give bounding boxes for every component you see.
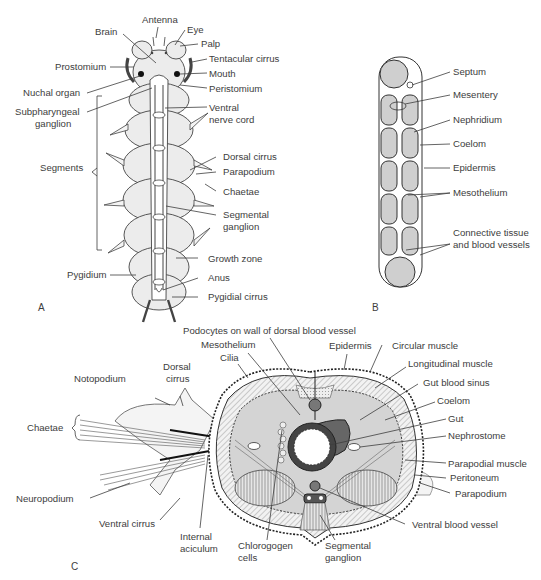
dorsal-blood-vessel xyxy=(309,399,321,411)
label-peristomium: Peristomium xyxy=(209,83,262,94)
panel-b-coelom-diagram: Septum Mesentery Nephridium Coelom Epide… xyxy=(372,57,530,313)
label-eye: Eye xyxy=(187,24,204,35)
label-notopodium: Notopodium xyxy=(74,373,126,384)
label-peritoneum: Peritoneum xyxy=(450,472,499,483)
label-segments: Segments xyxy=(40,162,83,173)
label-cells: cells xyxy=(238,552,257,563)
label-epidermis: Epidermis xyxy=(453,162,496,173)
label-ganglion-c: ganglion xyxy=(325,552,361,563)
label-tentacular-cirrus: Tentacular cirrus xyxy=(209,53,280,64)
label-dorsal-cirrus-c: cirrus xyxy=(166,373,190,384)
label-mesothelium-c: Mesothelium xyxy=(201,339,255,350)
segments-bracket xyxy=(97,96,102,250)
panel-label-a: A xyxy=(38,302,45,313)
panel-label-b: B xyxy=(372,302,379,313)
label-chaetae: Chaetae xyxy=(223,186,259,197)
label-mesentery: Mesentery xyxy=(453,89,498,100)
label-segmental: Segmental xyxy=(223,209,269,220)
annelid-anatomy-figure: Brain Antenna Eye Palp Tentacular cirrus… xyxy=(0,0,541,580)
label-subpharyngeal: Subpharyngeal xyxy=(15,106,80,117)
label-nephridium: Nephridium xyxy=(453,114,502,125)
label-septum: Septum xyxy=(453,66,486,77)
label-parapodial-muscle: Parapodial muscle xyxy=(448,458,527,469)
label-coelom: Coelom xyxy=(453,138,486,149)
label-parapodium-c: Parapodium xyxy=(455,488,507,499)
label-dorsal: Dorsal xyxy=(163,361,191,372)
label-epidermis-c: Epidermis xyxy=(329,340,372,351)
label-antenna: Antenna xyxy=(142,14,178,25)
panel-label-c: C xyxy=(71,561,78,572)
label-ventral-cirrus: Ventral cirrus xyxy=(99,518,155,529)
label-aciculum: aciculum xyxy=(180,543,218,554)
label-prostomium: Prostomium xyxy=(55,61,106,72)
label-neuropodium: Neuropodium xyxy=(16,493,74,504)
label-circular-muscle: Circular muscle xyxy=(392,340,458,351)
label-gut-blood-sinus: Gut blood sinus xyxy=(423,377,490,388)
label-internal: Internal xyxy=(180,531,212,542)
coelom-compartments xyxy=(379,57,422,287)
label-pygidium: Pygidium xyxy=(67,269,106,280)
label-palp: Palp xyxy=(201,38,220,49)
label-anus: Anus xyxy=(208,272,230,283)
label-chlorogogen: Chlorogogen xyxy=(238,540,293,551)
label-chaetae-c: Chaetae xyxy=(27,422,63,433)
panel-a-worm-diagram: Brain Antenna Eye Palp Tentacular cirrus… xyxy=(15,14,280,322)
label-dorsal-cirrus: Dorsal cirrus xyxy=(223,151,277,162)
label-ventral: Ventral xyxy=(209,102,239,113)
worm-body xyxy=(104,37,214,322)
label-nuchal-organ: Nuchal organ xyxy=(23,87,80,98)
label-segmental-ganglion: ganglion xyxy=(223,221,259,232)
label-gut: Gut xyxy=(448,413,464,424)
label-coelom-c: Coelom xyxy=(437,395,470,406)
label-podocytes: Podocytes on wall of dorsal blood vessel xyxy=(183,325,356,336)
label-nephrostome: Nephrostome xyxy=(448,430,506,441)
label-pygidial-cirrus: Pygidial cirrus xyxy=(208,291,268,302)
label-segmental-c: Segmental xyxy=(325,540,371,551)
label-subpharyngeal-ganglion: ganglion xyxy=(35,118,71,129)
label-mouth: Mouth xyxy=(209,68,236,79)
label-cilia: Cilia xyxy=(220,352,239,363)
label-brain: Brain xyxy=(95,26,117,37)
label-connective-tissue: Connective tissue xyxy=(453,227,529,238)
panel-c-cross-section: Podocytes on wall of dorsal blood vessel… xyxy=(16,325,527,572)
label-mesothelium: Mesothelium xyxy=(453,187,507,198)
label-blood-vessels: and blood vessels xyxy=(453,239,530,250)
label-nerve-cord: nerve cord xyxy=(209,114,254,125)
label-longitudinal-muscle: Longitudinal muscle xyxy=(408,358,493,369)
label-ventral-blood-vessel: Ventral blood vessel xyxy=(412,519,498,530)
left-parapodium xyxy=(80,388,215,495)
label-growth-zone: Growth zone xyxy=(208,253,262,264)
label-parapodium: Parapodium xyxy=(223,166,275,177)
